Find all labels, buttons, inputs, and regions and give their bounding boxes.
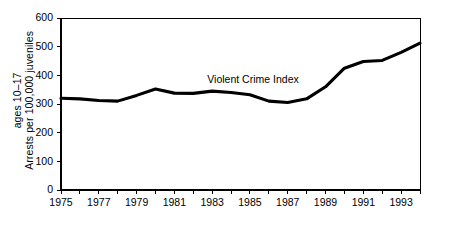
x-axis-tick-labels: 1975197719791981198319851987198919911993 — [49, 196, 413, 208]
x-axis-tick-label: 1989 — [314, 196, 338, 208]
y-axis-tick-label: 100 — [35, 155, 53, 167]
x-axis-tick-label: 1977 — [87, 196, 111, 208]
y-axis-tick-label: 400 — [35, 69, 53, 81]
x-axis-tick-label: 1987 — [276, 196, 300, 208]
y-axis-tick-label: 300 — [35, 97, 53, 109]
violent-crime-index-chart: Arrests per 100,000 juveniles ages 10–17… — [0, 0, 451, 226]
x-axis-tick-label: 1979 — [125, 196, 149, 208]
x-axis-tick-label: 1981 — [163, 196, 187, 208]
x-axis-tick-label: 1993 — [389, 196, 413, 208]
x-axis-tick-label: 1983 — [200, 196, 224, 208]
y-axis-tick-labels: 0100200300400500600 — [35, 11, 53, 195]
y-axis-ticks — [57, 18, 61, 190]
y-axis-tick-label: 600 — [35, 11, 53, 23]
x-axis-tick-label: 1991 — [352, 196, 376, 208]
y-axis-tick-label: 0 — [47, 183, 53, 195]
x-axis-tick-label: 1985 — [238, 196, 262, 208]
y-axis-tick-label: 500 — [35, 40, 53, 52]
x-axis-tick-label: 1975 — [49, 196, 73, 208]
plot-area: Violent Crime Index 0100200300400500600 … — [0, 0, 451, 226]
series-annotation-violent-crime-index: Violent Crime Index — [207, 73, 299, 85]
y-axis-tick-label: 200 — [35, 126, 53, 138]
x-axis-ticks — [61, 190, 420, 194]
